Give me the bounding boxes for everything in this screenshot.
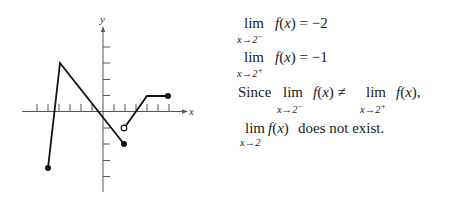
conclusion-text: does not exist. bbox=[298, 121, 384, 136]
y-axis bbox=[101, 26, 110, 192]
subscript-superscript: + bbox=[257, 66, 262, 75]
limit-expression: f(x) = −1 bbox=[275, 50, 328, 65]
closed-endpoint-dot bbox=[165, 93, 171, 99]
function-graph: x y bbox=[0, 0, 226, 214]
lim-subscript: x→2+ bbox=[360, 102, 386, 115]
subscript-text: x→2 bbox=[237, 68, 257, 79]
subscript-superscript: − bbox=[297, 102, 302, 111]
y-axis-arrow-icon bbox=[101, 26, 105, 32]
open-endpoint-circle bbox=[121, 125, 127, 131]
limit-expression: f(x) = −2 bbox=[275, 16, 328, 31]
left-piece-line bbox=[48, 63, 124, 168]
subscript-text: x→2 bbox=[237, 34, 257, 45]
limit-expression: f(x), bbox=[396, 85, 421, 100]
x-axis bbox=[22, 104, 188, 114]
closed-endpoint-dot bbox=[45, 165, 51, 171]
subscript-text: x→2 bbox=[277, 104, 297, 115]
lim-operator: lim bbox=[366, 85, 386, 100]
lim-operator: lim bbox=[244, 16, 264, 31]
x-axis-arrow-icon bbox=[182, 109, 188, 113]
limit-expression: f(x) bbox=[268, 121, 289, 136]
lim-operator: lim bbox=[283, 85, 303, 100]
lim-subscript: x→2− bbox=[237, 32, 263, 45]
limit-expression: f(x) ≠ bbox=[313, 85, 346, 100]
lim-subscript: x→2 bbox=[240, 138, 260, 148]
lim-subscript: x→2+ bbox=[237, 66, 263, 79]
lim-subscript: x→2− bbox=[277, 102, 303, 115]
subscript-text: x→2 bbox=[360, 104, 380, 115]
x-axis-label: x bbox=[188, 105, 194, 117]
lim-operator: lim bbox=[244, 50, 264, 65]
subscript-superscript: − bbox=[257, 32, 262, 41]
lim-operator: lim bbox=[245, 121, 265, 136]
subscript-superscript: + bbox=[380, 102, 385, 111]
since-word: Since bbox=[238, 85, 271, 100]
closed-endpoint-dot bbox=[121, 141, 127, 147]
y-axis-label: y bbox=[99, 13, 105, 25]
